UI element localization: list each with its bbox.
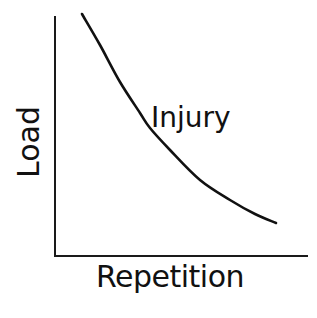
y-axis-label: Load: [14, 106, 44, 178]
load-repetition-chart: Load Repetition Injury: [0, 0, 317, 318]
x-axis-label: Repetition: [96, 262, 244, 292]
injury-curve-label: Injury: [151, 104, 231, 132]
